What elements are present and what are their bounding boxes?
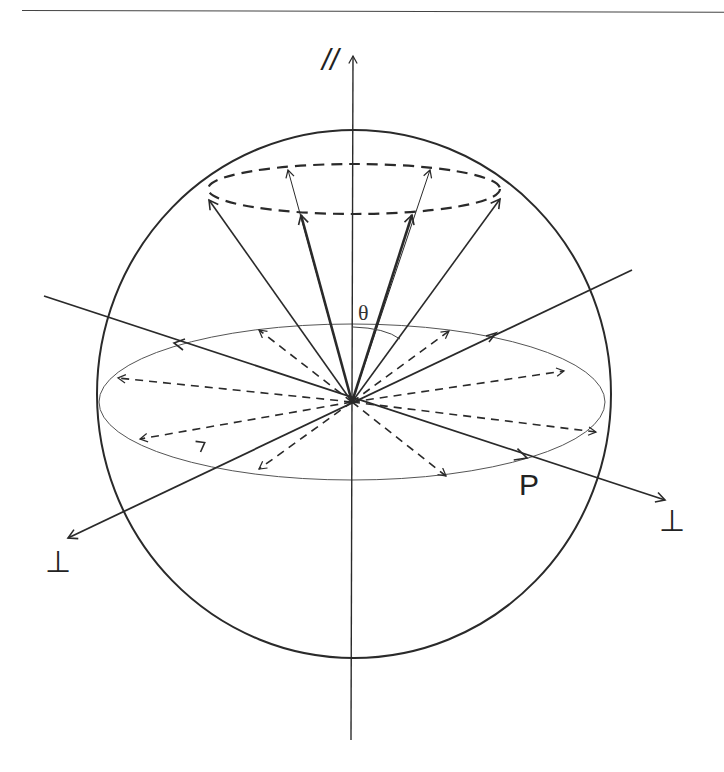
eq-vector-8 — [352, 331, 449, 402]
figure-page: // θ P ⊥ ⊥ — [0, 0, 724, 772]
eq-vector-2 — [118, 378, 352, 402]
cone-vector-far-right — [352, 199, 500, 402]
cone-vector-front-left — [301, 215, 352, 402]
perp-axis-mid-arrow-ll — [196, 441, 206, 453]
theta-label: θ — [358, 300, 369, 325]
polarization-sphere-diagram: // θ P ⊥ ⊥ — [0, 0, 724, 772]
cone-vectors — [209, 170, 500, 402]
perp-axis-left-label: ⊥ — [45, 545, 71, 578]
eq-vector-7 — [352, 371, 564, 402]
point-p-label: P — [519, 468, 539, 501]
parallel-axis-label: // — [320, 43, 341, 76]
cone-vector-back-right — [352, 170, 430, 402]
eq-vector-3 — [140, 402, 352, 439]
eq-vector-1 — [259, 330, 352, 402]
eq-vector-6 — [352, 402, 596, 432]
eq-vector-4 — [259, 402, 352, 469]
cone-rim-dashed-ellipse — [208, 164, 500, 214]
cone-vector-far-left — [209, 200, 352, 402]
perp-axis-right-label: ⊥ — [659, 504, 685, 537]
